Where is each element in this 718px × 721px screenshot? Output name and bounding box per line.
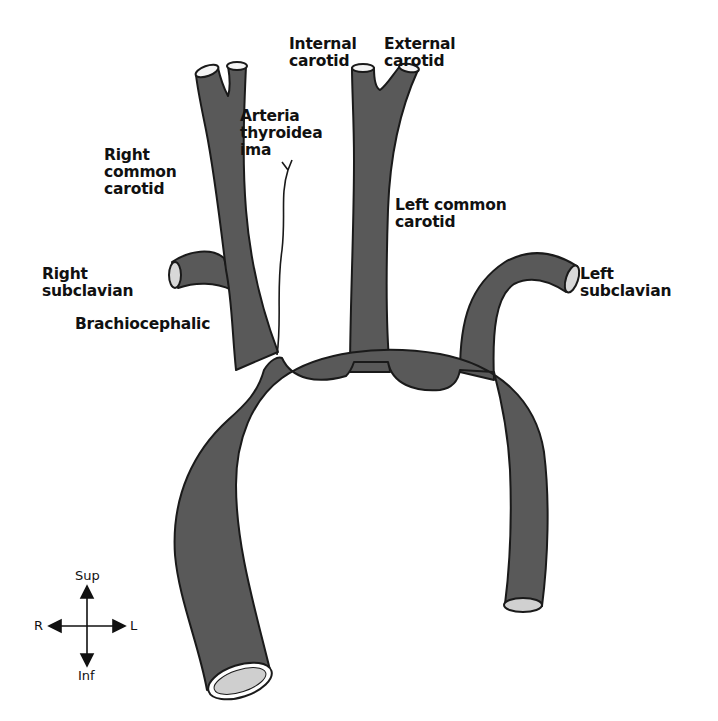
label-right-common-carotid: Right common carotid xyxy=(104,147,177,198)
compass-inf-label: Inf xyxy=(78,668,95,683)
label-arteria-thyroidea-ima: Arteria thyroidea ima xyxy=(240,108,322,159)
vessel-illustration xyxy=(0,0,718,721)
right-subclavian-lumen xyxy=(169,262,181,288)
label-external-carotid: External carotid xyxy=(384,36,455,70)
descending-aorta-lumen xyxy=(504,598,542,612)
compass-right-label: R xyxy=(34,618,43,633)
label-left-subclavian: Left subclavian xyxy=(580,266,671,300)
label-right-subclavian: Right subclavian xyxy=(42,266,133,300)
compass-left-label: L xyxy=(130,618,137,633)
label-brachiocephalic: Brachiocephalic xyxy=(75,316,210,333)
label-internal-carotid: Internal carotid xyxy=(289,36,357,70)
right-carotid-lumen-2 xyxy=(227,62,247,70)
compass-sup-label: Sup xyxy=(75,568,100,583)
label-left-common-carotid: Left common carotid xyxy=(395,197,507,231)
